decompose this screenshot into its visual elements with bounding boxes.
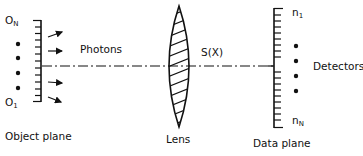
photons-label: Photons: [80, 43, 122, 55]
detector-dots: [294, 44, 298, 93]
object-plane-label: Object plane: [5, 130, 72, 142]
photon-arrows: [48, 32, 62, 102]
detectors-label: Detectors: [313, 60, 363, 72]
object-bottom-label: O1: [5, 96, 18, 110]
object-plane-ticks: [33, 21, 41, 102]
lens-hatching: [160, 4, 200, 140]
object-dots: [16, 42, 20, 90]
data-plane-ticks: [268, 9, 283, 128]
photon-arrow-icon: [48, 97, 61, 102]
optical-diagram: ON O1 Object plane Photons: [0, 0, 363, 156]
lens-label: Lens: [166, 133, 190, 145]
object-top-label: ON: [5, 14, 19, 28]
data-top-label: n1: [292, 6, 303, 20]
data-bottom-label: nN: [292, 114, 304, 128]
photon-arrow-icon: [48, 32, 62, 37]
lens-function-label: S(X): [201, 46, 223, 58]
data-plane: n1 nN Data plane: [253, 6, 311, 149]
photon-arrow-icon: [48, 82, 62, 83]
data-plane-label: Data plane: [253, 137, 311, 149]
lens: S(X) Lens: [160, 4, 223, 145]
object-plane: ON O1 Object plane: [5, 14, 72, 142]
